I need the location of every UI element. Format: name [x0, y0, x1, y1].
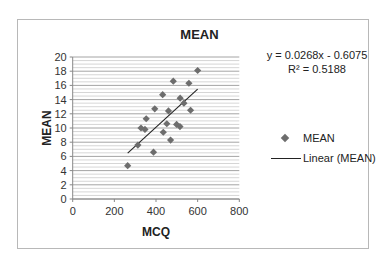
data-point: [151, 105, 158, 112]
trendline-line-icon: [271, 158, 301, 159]
y-tick-label: 8: [61, 136, 67, 148]
y-tick-label: 16: [54, 79, 66, 91]
y-tick-label: 4: [61, 165, 67, 177]
x-tick-label: 0: [70, 205, 76, 217]
data-point: [187, 107, 194, 114]
x-tick-label: 800: [230, 205, 248, 217]
x-tick-label: 200: [105, 205, 123, 217]
r-squared-text: R² = 0.5188: [262, 62, 372, 76]
legend-label-linear: Linear (MEAN): [303, 152, 376, 164]
y-tick-label: 18: [54, 65, 66, 77]
data-point: [124, 162, 131, 169]
data-point: [177, 95, 184, 102]
x-tick-label: 400: [147, 205, 165, 217]
x-axis-label: MCQ: [142, 225, 170, 239]
trendline-equation: y = 0.0268x - 0.6075 R² = 0.5188: [262, 48, 372, 76]
data-point: [159, 91, 166, 98]
y-tick-label: 2: [61, 179, 67, 191]
legend-label-mean: MEAN: [303, 132, 335, 144]
y-tick-label: 6: [61, 150, 67, 162]
equation-text: y = 0.0268x - 0.6075: [262, 48, 372, 62]
legend: MEAN Linear (MEAN): [267, 128, 376, 168]
y-tick-label: 10: [54, 122, 66, 134]
y-tick-label: 20: [54, 51, 66, 63]
legend-item-linear: Linear (MEAN): [267, 148, 376, 168]
y-axis-label: MEAN: [40, 110, 54, 145]
data-point: [143, 115, 150, 122]
y-tick-label: 12: [54, 108, 66, 120]
x-tick-label: 600: [188, 205, 206, 217]
data-points: [124, 67, 201, 169]
legend-item-mean: MEAN: [267, 128, 376, 148]
y-tick-label: 0: [61, 193, 67, 205]
y-tick-label: 14: [54, 94, 66, 106]
gridlines: [73, 57, 240, 199]
diamond-marker-icon: [281, 134, 289, 142]
data-point: [180, 100, 187, 107]
